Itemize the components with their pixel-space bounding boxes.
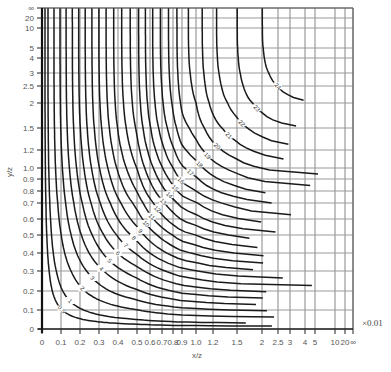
influence-chart: 0.51234567891011121314151617181920212223… — [0, 0, 391, 372]
contour-curve — [48, 8, 246, 323]
x-tick-label: 0.4 — [112, 338, 124, 347]
y-tick-label: 5 — [30, 44, 35, 53]
y-tick-label: 0.3 — [23, 267, 35, 276]
contour-curve — [188, 8, 318, 174]
x-tick-label: 1.5 — [231, 338, 243, 347]
x-tick-label: 2 — [260, 338, 265, 347]
y-tick-label: 2.5 — [23, 82, 35, 91]
x-tick-label: 5 — [313, 338, 318, 347]
y-tick-label: 0.8 — [23, 187, 35, 196]
contour-curve — [139, 8, 276, 232]
y-tick-label: 4 — [30, 54, 35, 63]
y-tick-label: 2 — [30, 99, 35, 108]
contour-curve — [145, 8, 261, 222]
y-tick-label: 1.0 — [23, 164, 35, 173]
y-tick-label: 0.1 — [23, 306, 35, 315]
x-tick-label: 1.0 — [190, 338, 202, 347]
x-axis-label: x/z — [192, 351, 202, 360]
x-tick-label: 0.3 — [93, 338, 105, 347]
y-tick-label: 0.7 — [23, 199, 35, 208]
x-tick-label: 0.1 — [55, 338, 67, 347]
x-tick-label: 0.6 — [144, 338, 156, 347]
y-tick-label: 0.9 — [23, 175, 35, 184]
x-tick-label: ∞ — [350, 338, 356, 347]
y-tick-label: ∞ — [28, 4, 34, 13]
contour-curve — [72, 8, 262, 298]
x-tick-label: 10 — [331, 338, 340, 347]
x-tick-label: 0.2 — [74, 338, 86, 347]
y-tick-label: 0.6 — [23, 215, 35, 224]
y-tick-label: 1.2 — [23, 146, 35, 155]
y-tick-label: 10 — [25, 24, 34, 33]
contour-curve — [130, 8, 249, 238]
x-tick-label: 4 — [303, 338, 308, 347]
y-tick-label: 0.4 — [23, 249, 35, 258]
y-axis-label: y/z — [5, 167, 14, 177]
y-tick-label: 0.5 — [23, 231, 35, 240]
x-tick-label: 3 — [288, 338, 293, 347]
y-tick-label: 3 — [30, 69, 35, 78]
y-tick-label: 1.5 — [23, 124, 35, 133]
x-tick-label: 0.7 — [156, 338, 168, 347]
contour-labels: 0.51234567891011121314151617181920212223… — [57, 82, 283, 315]
y-tick-label: 0 — [30, 325, 35, 334]
unit-note: ×0.01 — [362, 318, 383, 328]
x-tick-label: 1.2 — [207, 338, 219, 347]
y-tick-label: 20 — [25, 14, 34, 23]
figure-caption — [0, 362, 391, 372]
y-tick-label: 0.2 — [23, 287, 35, 296]
x-tick-label: 0 — [40, 338, 45, 347]
x-tick-label: 0.5 — [131, 338, 143, 347]
x-tick-label: 2.5 — [272, 338, 284, 347]
x-tick-label: 0.9 — [176, 338, 188, 347]
x-tick-label: 20 — [341, 338, 350, 347]
